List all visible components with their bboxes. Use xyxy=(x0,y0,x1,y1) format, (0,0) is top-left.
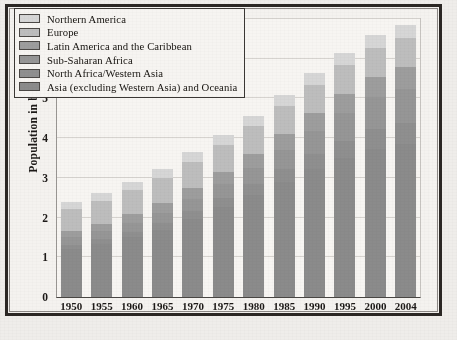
bar-segment[interactable] xyxy=(243,168,264,184)
bar-segment[interactable] xyxy=(365,97,386,129)
legend-item[interactable]: Sub-Saharan Africa xyxy=(19,53,237,67)
legend-item[interactable]: Asia (excluding Western Asia) and Oceani… xyxy=(19,80,237,94)
bar-segment[interactable] xyxy=(182,152,203,161)
stacked-bar[interactable] xyxy=(61,202,82,297)
legend-swatch-icon xyxy=(19,14,40,23)
bar-segment[interactable] xyxy=(213,145,234,172)
bar-segment[interactable] xyxy=(213,198,234,207)
x-axis-tick-label: 1985 xyxy=(273,300,295,312)
bar-segment[interactable] xyxy=(91,224,112,232)
bar-segment[interactable] xyxy=(304,169,325,297)
bar-segment[interactable] xyxy=(213,184,234,198)
bar-segment[interactable] xyxy=(304,85,325,114)
bar-segment[interactable] xyxy=(243,184,264,195)
bar-segment[interactable] xyxy=(365,48,386,77)
x-axis-tick-label: 2000 xyxy=(364,300,386,312)
bar-segment[interactable] xyxy=(213,207,234,297)
bar-segment[interactable] xyxy=(182,199,203,211)
legend-item[interactable]: Latin America and the Caribbean xyxy=(19,39,237,53)
bar-segment[interactable] xyxy=(152,230,173,298)
bar-segment[interactable] xyxy=(91,244,112,297)
bar-segment[interactable] xyxy=(152,178,173,203)
bar-segment[interactable] xyxy=(152,213,173,223)
bar-segment[interactable] xyxy=(243,116,264,126)
y-axis-tick-label: 3 xyxy=(42,172,48,184)
bar-segment[interactable] xyxy=(61,231,82,238)
legend-swatch-icon xyxy=(19,69,40,78)
bar-segment[interactable] xyxy=(182,219,203,297)
bar-segment[interactable] xyxy=(395,89,416,123)
bar-segment[interactable] xyxy=(182,211,203,219)
legend-swatch-icon xyxy=(19,28,40,37)
bar-segment[interactable] xyxy=(122,237,143,297)
bar-segment[interactable] xyxy=(395,38,416,67)
bar-segment[interactable] xyxy=(152,203,173,213)
bar-segment[interactable] xyxy=(304,73,325,84)
bar-segment[interactable] xyxy=(365,129,386,149)
bar-segment[interactable] xyxy=(182,188,203,200)
stacked-bar[interactable] xyxy=(365,35,386,297)
bar-segment[interactable] xyxy=(395,25,416,38)
stacked-bar[interactable] xyxy=(334,53,355,297)
bar-segment[interactable] xyxy=(334,65,355,94)
bar-segment[interactable] xyxy=(304,131,325,154)
bar-segment[interactable] xyxy=(61,237,82,244)
bar-segment[interactable] xyxy=(334,158,355,297)
bar-segment[interactable] xyxy=(365,149,386,297)
stacked-bar[interactable] xyxy=(243,116,264,297)
bar-segment[interactable] xyxy=(182,162,203,188)
x-axis-tick-label: 1950 xyxy=(60,300,82,312)
bar-segment[interactable] xyxy=(274,182,295,297)
bar-segment[interactable] xyxy=(304,113,325,130)
bar-segment[interactable] xyxy=(122,223,143,232)
bar-segment[interactable] xyxy=(274,169,295,182)
bar-segment[interactable] xyxy=(213,135,234,145)
bar-segment[interactable] xyxy=(91,201,112,224)
stacked-bar[interactable] xyxy=(182,152,203,297)
stacked-bar[interactable] xyxy=(152,169,173,297)
bar-segment[interactable] xyxy=(61,249,82,297)
bar-segment[interactable] xyxy=(122,182,143,190)
bar-segment[interactable] xyxy=(122,190,143,214)
stacked-bar[interactable] xyxy=(395,25,416,297)
legend-item[interactable]: Europe xyxy=(19,26,237,40)
x-axis-tick-label: 2004 xyxy=(395,300,417,312)
bar-segment[interactable] xyxy=(365,35,386,47)
bar-segment[interactable] xyxy=(274,150,295,169)
stacked-bar[interactable] xyxy=(122,182,143,297)
bar-segment[interactable] xyxy=(334,53,355,65)
bar-segment[interactable] xyxy=(334,141,355,158)
stacked-bar[interactable] xyxy=(213,135,234,297)
bar-segment[interactable] xyxy=(365,77,386,98)
bar-segment[interactable] xyxy=(243,126,264,153)
bar-segment[interactable] xyxy=(152,169,173,178)
bar-segment[interactable] xyxy=(61,202,82,209)
bar-segment[interactable] xyxy=(122,214,143,223)
bar-segment[interactable] xyxy=(91,231,112,239)
bar-segment[interactable] xyxy=(213,172,234,185)
legend-item-label: Asia (excluding Western Asia) and Oceani… xyxy=(47,81,237,93)
legend-item-label: North Africa/Western Asia xyxy=(47,67,163,79)
bar-segment[interactable] xyxy=(243,154,264,168)
bar-segment[interactable] xyxy=(61,209,82,231)
bar-segment[interactable] xyxy=(395,67,416,89)
bar-segment[interactable] xyxy=(334,94,355,113)
stacked-bar[interactable] xyxy=(91,193,112,297)
x-axis-tick-label: 1965 xyxy=(151,300,173,312)
stacked-bar[interactable] xyxy=(304,73,325,297)
bar-segment[interactable] xyxy=(395,123,416,144)
stacked-bar[interactable] xyxy=(274,95,295,297)
y-axis-tick-label: 2 xyxy=(42,212,48,224)
bar-segment[interactable] xyxy=(334,113,355,140)
legend-item[interactable]: North Africa/Western Asia xyxy=(19,66,237,80)
legend-item[interactable]: Northern America xyxy=(19,12,237,26)
bar-segment[interactable] xyxy=(395,144,416,297)
bar-segment[interactable] xyxy=(91,193,112,201)
bar-segment[interactable] xyxy=(304,154,325,169)
bar-segment[interactable] xyxy=(274,134,295,150)
bar-segment[interactable] xyxy=(274,95,295,106)
bar-segment[interactable] xyxy=(243,195,264,297)
x-axis-tick-label: 1960 xyxy=(121,300,143,312)
bar-segment[interactable] xyxy=(274,106,295,134)
legend-item-label: Northern America xyxy=(47,13,126,25)
